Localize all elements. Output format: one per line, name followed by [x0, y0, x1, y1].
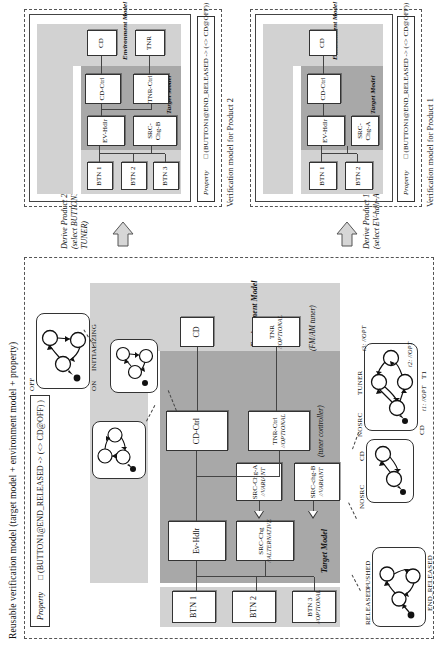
product1-cd[interactable]: CD: [309, 30, 337, 56]
product2-cd[interactable]: CD: [87, 30, 117, 56]
product1-property-strip: Property □ (BUTTON1@END_RELEASED -> (<> …: [397, 16, 415, 202]
product1-cd-ctrl[interactable]: CD-Ctrl: [307, 74, 341, 104]
component-tnr-ctrl-label: TNR-Ctrl: [272, 417, 280, 444]
cd-state-off: OFF: [28, 378, 36, 391]
product2-tnr-ctrl[interactable]: TNR-Ctrl: [133, 74, 169, 104]
product2-src-chg[interactable]: SRC-Chg-B: [133, 116, 177, 146]
product2-tnr-label: TNR: [146, 36, 154, 50]
product1-property-value: □ (BUTTON1@END_RELEASED -> (<> CD@OFF)): [402, 0, 410, 164]
product2-btn2[interactable]: BTN 2: [121, 162, 147, 190]
component-btn3-stereotype: //OPTIONAL: [314, 590, 321, 624]
component-tnr[interactable]: TNR //OPTIONAL: [252, 317, 300, 347]
component-src-chg[interactable]: SRC-Chg //ALTERNATIVE: [236, 521, 294, 561]
figure-title: Reusable verification model (target mode…: [8, 342, 18, 639]
product1-frame: Environment Model Target Model BTN 1 BTN…: [250, 9, 422, 207]
component-btn2[interactable]: BTN 2: [232, 591, 276, 623]
product2-tnr-ctrl-label: TNR-Ctrl: [147, 75, 155, 102]
product1-bus: [321, 153, 357, 154]
component-btn2-label: BTN 2: [250, 596, 259, 618]
target-model-label: Target Model: [320, 529, 329, 573]
component-src-chg-b[interactable]: SRC-chg-B //VARIANT: [294, 463, 340, 501]
component-ev-hdlr[interactable]: Ev-Hdlr: [168, 521, 226, 561]
cd-state-initializing: INITIALIZING: [90, 324, 98, 371]
product1-cd-ctrl-label: CD-Ctrl: [320, 78, 328, 101]
variation-arrow-b-inner-icon: [309, 511, 317, 517]
product2-btn1-label: BTN 1: [96, 166, 104, 185]
variation-arrow-a-inner-icon: [255, 511, 263, 517]
component-src-chg-b-stereotype: //VARIANT: [317, 468, 324, 497]
component-cd-label: CD: [193, 326, 202, 337]
product1-link-ev-cdctrl: [323, 104, 324, 116]
product2-property-value: □ (BUTTON1@END_RELEASED -> (<> CD@OFF)): [202, 0, 210, 164]
component-cd-ctrl[interactable]: CD-Ctrl: [166, 411, 228, 451]
product1-src-chg[interactable]: SRC-Chg-A: [351, 116, 379, 146]
product2-property-strip: Property □ (BUTTON1@END_RELEASED -> (<> …: [197, 16, 215, 202]
tnr-ctrl-statechart: [92, 421, 146, 479]
bus-vertical-buttons: [196, 576, 314, 577]
button-statechart: [372, 547, 426, 627]
product1-target-label: Target Model: [369, 76, 377, 114]
link-bus-srcchg: [265, 561, 266, 577]
src-chg-a-state-nosrc: NOSRC: [358, 485, 366, 509]
component-btn1[interactable]: BTN 1: [172, 591, 216, 623]
component-btn3-label: BTN 3: [307, 597, 315, 616]
product2-link-tnrctrl-tnr: [149, 56, 150, 74]
component-tnr-ctrl[interactable]: TNR-Ctrl //OPTIONAL: [248, 411, 310, 451]
fm-am-tuner-annotation: (FM/AM tuner): [308, 305, 317, 351]
src-chg-b-state-tuner: TUNER: [356, 371, 364, 395]
product1-btn1[interactable]: BTN 1: [309, 162, 337, 190]
product2-link-btn1: [99, 146, 100, 162]
component-src-chg-a-label: SRC-Chg-A: [252, 465, 260, 500]
product1-property-label: Property: [402, 164, 410, 201]
link-tnrctrl-tnr: [276, 347, 277, 411]
product2-cd-ctrl[interactable]: CD-Ctrl: [85, 74, 121, 104]
product2-cd-ctrl-label: CD-Ctrl: [99, 78, 107, 101]
src-chg-b-state-cd: CD: [418, 425, 426, 435]
component-src-chg-a-stereotype: //VARIANT: [259, 468, 266, 497]
component-src-chg-label: SRC-Chg: [258, 527, 266, 554]
component-src-chg-a[interactable]: SRC-Chg-A //VARIANT: [236, 463, 282, 501]
product2-bus: [99, 153, 165, 154]
component-cd[interactable]: CD: [180, 317, 214, 347]
component-src-chg-stereotype: //ALTERNATIVE: [265, 519, 272, 563]
product2-link-bus-src: [151, 146, 152, 154]
tuner-controller-annotation: (tuner controller): [316, 405, 325, 457]
product2-ev-hdlr[interactable]: EV-Hdlr: [87, 116, 125, 146]
product2-btn2-label: BTN 2: [130, 166, 138, 185]
product1-btn2-label: BTN 2: [355, 166, 363, 185]
product2-link-cdctrl-cd: [101, 56, 102, 74]
button-state-pushed: PUSHED: [364, 561, 372, 589]
product2-link-ev-tnrctrl-h: [151, 104, 152, 110]
component-ev-hdlr-label: Ev-Hdlr: [193, 528, 202, 554]
src-chg-b-transition-t1: t1: //OPT: [420, 386, 427, 411]
product2-environment-label: Environment Model: [121, 2, 129, 60]
cd-state-on: ON: [90, 380, 98, 391]
product2-caption: Verification model for Product 2: [226, 98, 235, 207]
cd-ctrl-statechart: [110, 339, 158, 393]
component-cd-ctrl-label: CD-Ctrl: [193, 418, 202, 444]
src-chg-a-statechart: [366, 439, 414, 503]
component-btn3[interactable]: BTN 3 //OPTIONAL: [292, 591, 336, 623]
product2-btn1[interactable]: BTN 1: [87, 162, 113, 190]
product1-ev-hdlr[interactable]: EV-Hdlr: [307, 116, 345, 146]
product2-tnr[interactable]: TNR: [135, 30, 165, 56]
product1-caption: Verification model for Product 1: [426, 98, 435, 207]
product2-src-chg-label: SRC-Chg-B: [147, 117, 163, 145]
product1-link-bus-src: [347, 146, 348, 154]
product1-btn2[interactable]: BTN 2: [345, 162, 373, 190]
variation-line-a: [259, 501, 260, 511]
product2-frame: Environment Model Target Model BTN 1 BTN…: [24, 9, 222, 207]
src-chg-b-transition-t3: t3: //OPT: [360, 326, 367, 351]
link-btn2-bus: [256, 577, 257, 591]
src-chg-b-state-t1: T1: [420, 371, 428, 379]
product2-ev-hdlr-label: EV-Hdlr: [102, 119, 110, 143]
product1-cd-label: CD: [319, 38, 327, 48]
link-btn3-bus: [314, 577, 315, 591]
product1-link-btn2: [357, 154, 358, 162]
product2-link-ev-tnrctrl-v: [101, 109, 151, 110]
reusable-property-label: Property: [36, 586, 45, 626]
product2-btn3[interactable]: BTN 3: [153, 162, 179, 190]
variation-line-b: [313, 501, 314, 511]
rotated-figure-wrapper: Reusable verification model (target mode…: [0, 0, 447, 647]
product1-gutter: [293, 66, 301, 194]
